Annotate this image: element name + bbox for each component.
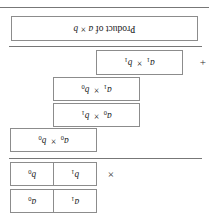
multiplication-diagram: Product of a × b + a1 × b1 a1 × b0 a0 × … [0, 0, 209, 213]
partial-product-a0b0-label: a0 × b0 [38, 135, 68, 145]
sum-rule-line [9, 46, 202, 47]
operand-a-high-digit-label: a1 [71, 196, 79, 206]
product-result-box: Product of a × b [11, 16, 198, 41]
product-result-label: Product of a × b [74, 24, 136, 34]
operand-b-low-digit-label: b0 [28, 169, 36, 179]
operand-a-low-digit-cell: a0 [11, 190, 54, 212]
operand-a-low-digit-label: a0 [28, 196, 36, 206]
operand-b-low-digit-cell: b0 [11, 163, 54, 185]
partial-product-a0b1-box: a0 × b1 [53, 103, 140, 127]
operand-b-box: b1 b0 [10, 162, 97, 186]
partial-product-a1b0-label: a1 × b0 [81, 84, 111, 94]
partial-product-a1b0-box: a1 × b0 [53, 77, 140, 101]
operand-a-high-digit-cell: a1 [54, 190, 97, 212]
times-operator: × [108, 169, 114, 180]
page-edge-line [0, 7, 209, 8]
operand-rule-line [9, 158, 202, 159]
partial-product-a1b1-label: a1 × b1 [124, 58, 154, 68]
partial-product-a1b1-box: a1 × b1 [96, 50, 183, 75]
plus-operator: + [200, 57, 206, 68]
partial-product-a0b0-box: a0 × b0 [10, 128, 97, 152]
partial-product-a0b1-label: a0 × b1 [81, 110, 111, 120]
operand-b-high-digit-label: b1 [71, 169, 79, 179]
operand-b-high-digit-cell: b1 [54, 163, 97, 185]
operand-a-box: a1 a0 [10, 189, 97, 213]
